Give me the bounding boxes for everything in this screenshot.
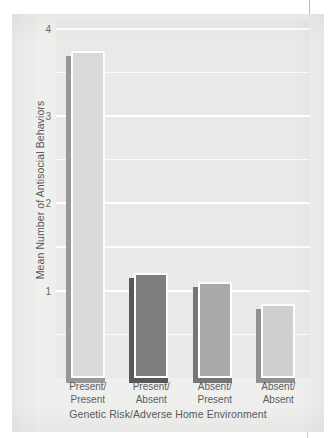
- x-axis-tick-label-line: Present/: [56, 380, 120, 393]
- x-axis-tick-label-line: Present: [56, 393, 120, 406]
- x-axis-tick-label: Present/Absent: [120, 380, 184, 406]
- plot-area: 1234: [56, 20, 310, 378]
- x-axis-tick-label-line: Absent: [247, 393, 311, 406]
- x-axis-tick-label-line: Present: [183, 393, 247, 406]
- x-axis-tick-label-line: Present/: [120, 380, 184, 393]
- bar-highlight-rim: [134, 273, 168, 378]
- x-axis-tick-label-line: Absent: [120, 393, 184, 406]
- bar[interactable]: [134, 273, 168, 378]
- y-axis-tick-label: 2: [45, 198, 51, 209]
- bar-highlight-rim: [198, 282, 232, 378]
- x-axis-tick-label-line: Absent/: [183, 380, 247, 393]
- x-axis-tick-label: Absent/Absent: [247, 380, 311, 406]
- bar-highlight-rim: [71, 51, 105, 378]
- y-axis-tick-label: 3: [45, 111, 51, 122]
- x-axis-tick-label: Absent/Present: [183, 380, 247, 406]
- bar[interactable]: [198, 282, 232, 378]
- bar[interactable]: [261, 304, 295, 378]
- x-axis-tick-label-line: Absent/: [247, 380, 311, 393]
- x-axis-title: Genetic Risk/Adverse Home Environment: [12, 408, 324, 420]
- bar-chart-figure: Mean Number of Antisocial Behaviors 1234…: [12, 14, 324, 432]
- y-axis-title: Mean Number of Antisocial Behaviors: [34, 85, 46, 295]
- gridline: [56, 28, 310, 30]
- bar[interactable]: [71, 51, 105, 378]
- x-axis-tick-label: Present/Present: [56, 380, 120, 406]
- figure-page: Mean Number of Antisocial Behaviors 1234…: [0, 0, 336, 438]
- y-axis-tick-label: 1: [45, 285, 51, 296]
- bar-highlight-rim: [261, 304, 295, 378]
- y-axis-tick-label: 4: [45, 23, 51, 34]
